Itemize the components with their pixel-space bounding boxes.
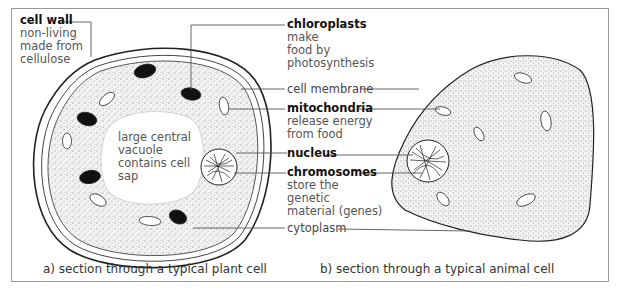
label-chloroplasts: chloroplasts make food by photosynthesis	[287, 18, 374, 70]
animal-cell	[392, 56, 594, 241]
cell-wall-desc-3: cellulose	[20, 53, 83, 66]
label-cytoplasm: cytoplasm	[287, 222, 346, 235]
chloroplasts-desc-3: photosynthesis	[287, 57, 374, 70]
label-chromosomes: chromosomes store the genetic material (…	[287, 166, 382, 218]
label-mitochondria: mitochondria release energy from food	[287, 102, 373, 141]
caption-animal-cell: b) section through a typical animal cell	[320, 262, 554, 276]
caption-plant-cell: a) section through a typical plant cell	[43, 262, 267, 276]
mitochondria-desc-2: from food	[287, 128, 373, 141]
label-cell-wall: cell wall non-living made from cellulose	[20, 14, 83, 66]
chromosomes-desc-3: material (genes)	[287, 205, 382, 218]
vacuole-line-4: sap	[118, 170, 218, 183]
label-nucleus: nucleus	[287, 147, 337, 160]
label-vacuole: large central vacuole contains cell sap	[118, 131, 218, 183]
nucleus-title: nucleus	[287, 146, 337, 160]
animal-nucleus	[407, 140, 449, 182]
label-cell-membrane: cell membrane	[287, 83, 373, 96]
